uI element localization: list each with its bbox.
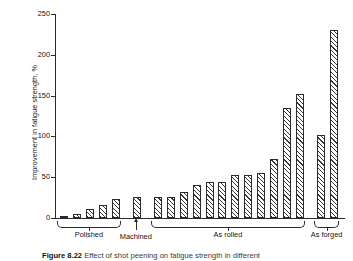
group-label: As forged: [282, 231, 353, 239]
bar: [206, 182, 214, 218]
y-tick-label: 150: [20, 92, 50, 99]
bar: [330, 30, 338, 218]
group-label: As rolled: [183, 231, 273, 239]
bar-series: [56, 14, 345, 218]
bar: [296, 94, 304, 218]
bar: [317, 135, 325, 218]
bar: [244, 175, 252, 218]
bar: [283, 108, 291, 218]
y-tick-label: 200: [20, 51, 50, 58]
bar: [86, 209, 94, 218]
bar: [154, 197, 162, 218]
bar: [133, 197, 141, 218]
figure-caption-label: Figure 8.22: [42, 251, 82, 260]
bar: [193, 185, 201, 218]
figure-caption-text: Effect of shot peening on fatigue streng…: [84, 251, 260, 260]
bar: [257, 173, 265, 218]
bar: [112, 199, 120, 218]
y-tick-label: 50: [20, 173, 50, 180]
bar: [60, 216, 68, 218]
figure-container: Improvement in fatigue strength, % 05010…: [0, 0, 353, 261]
bar: [231, 175, 239, 218]
group-label: Machined: [91, 233, 181, 241]
bar: [73, 214, 81, 218]
y-tick-label: 100: [20, 132, 50, 139]
y-tick-label: 0: [20, 214, 50, 221]
bar: [270, 159, 278, 218]
y-tick-label: 250: [20, 10, 50, 17]
group-arrow-head: [134, 218, 138, 222]
figure-caption: Figure 8.22 Effect of shot peening on fa…: [42, 251, 342, 261]
y-axis-label: Improvement in fatigue strength, %: [30, 33, 39, 213]
bar: [218, 182, 226, 218]
plot-area: 050100150200250: [55, 14, 345, 219]
bar: [167, 197, 175, 218]
bar: [180, 192, 188, 218]
bar: [99, 205, 107, 218]
